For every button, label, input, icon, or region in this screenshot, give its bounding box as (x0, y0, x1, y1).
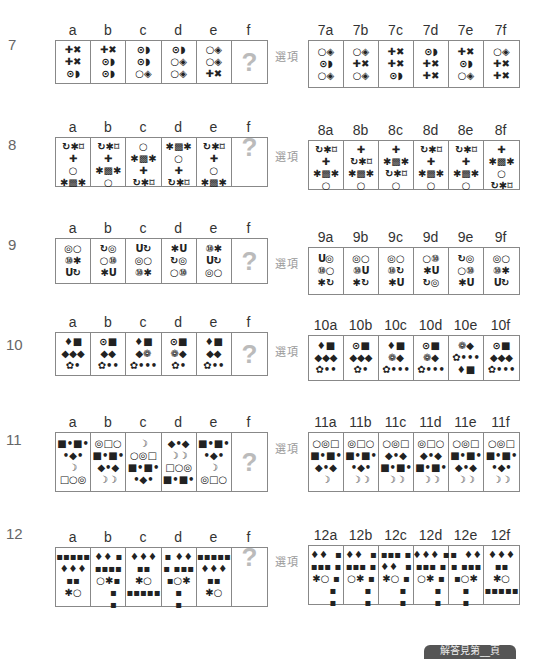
option-cell-12c[interactable]: ▪▪▪ ▪♦♦ ▪✱○ ▪ ▪ ▪ (379, 546, 414, 604)
option-cell-10f[interactable]: ⊙■◆◆◆✿••• (484, 336, 519, 380)
symbol-row: ◆•◆ (315, 462, 337, 474)
option-cell-12b[interactable]: ♦♦ ▪▪▪▪ ▪○✱ ▪ ▪ ▪ (344, 546, 379, 604)
symbol-row: ▪ (421, 597, 442, 609)
symbol-row: ⑩↻ (388, 265, 405, 277)
option-header: 9e (448, 229, 483, 245)
symbol-row: ⊙◗ (424, 46, 438, 58)
symbol-row: ⑩✱ (493, 265, 510, 277)
sequence-cell: ↻✱⌑✚○✱▩✱ (197, 138, 232, 186)
symbol-row: ▪ (463, 597, 470, 609)
symbol-row: ▪▪ (137, 563, 151, 575)
sequence-header: d (161, 119, 196, 135)
option-cell-7b[interactable]: ○◈✚✖○◈ (344, 41, 379, 87)
option-cell-10a[interactable]: ♦■◆◆◆✿•• (309, 336, 344, 380)
option-cell-7e[interactable]: ✚✖⊙◗○◈ (449, 41, 484, 87)
option-cell-7a[interactable]: ○◈⊙◗○◈ (309, 41, 344, 87)
option-header: 7e (448, 22, 483, 38)
symbol-row: Ս↻ (136, 243, 152, 255)
symbol-row: ✱▩✱ (348, 168, 374, 180)
symbol-row: ■•■• (57, 438, 89, 450)
symbol-row: ✚✖ (65, 56, 82, 68)
symbol-row: ○◎□ (313, 438, 340, 450)
option-cell-9e[interactable]: ↻◎○⑩✱Ս (449, 248, 484, 294)
question-mark-icon: ? (242, 551, 258, 563)
symbol-row: ○ (174, 153, 183, 165)
symbol-row: ✚ (104, 153, 112, 165)
option-cell-8e[interactable]: ↻✱⌑✚✱▩✱○ (449, 141, 484, 189)
symbol-row: ✿• (171, 360, 186, 372)
option-cell-7f[interactable]: ○◈✚✖✚✖ (484, 41, 519, 87)
symbol-row: ↻✱⌑ (203, 141, 225, 153)
symbol-row: ♦♦ ▪ (345, 549, 377, 561)
symbol-row: ○ (104, 177, 113, 189)
symbol-row: ▪▪▪ ▪ (381, 549, 412, 561)
option-cell-9a[interactable]: Ս◎⑩○✱↻ (309, 248, 344, 294)
option-cell-8c[interactable]: ✚✱▩✱↻✱⌑○ (379, 141, 414, 189)
option-header: 7b (343, 22, 378, 38)
sequence-header: a (55, 414, 90, 430)
symbol-row: ↻✱⌑ (455, 144, 477, 156)
option-cell-7d[interactable]: ⊙◗✚✖✚✖ (414, 41, 449, 87)
symbol-row: ↻✱⌑ (385, 168, 407, 180)
option-cell-11d[interactable]: ◎□○◆•◆■•■•☽☽ (414, 433, 449, 491)
option-cell-12e[interactable]: ▪ ♦♦▪ ▪▪▪▪○✱▪▪ (449, 546, 484, 604)
option-cell-8b[interactable]: ✚↻✱⌑✱▩✱○ (344, 141, 379, 189)
symbol-row: ○ (392, 180, 401, 192)
symbol-row: ▪ (351, 585, 372, 597)
option-cell-12d[interactable]: ♦♦♦ ▪▪▪▪ ▪○✱ ▪ ▪ ▪ (414, 546, 449, 604)
question-mark-icon: ? (242, 56, 258, 68)
option-cell-12f[interactable]: ♦♦♦▪▪✱○▪▪▪▪▪ (484, 546, 519, 604)
option-cell-8a[interactable]: ↻✱⌑✚✱▩✱○ (309, 141, 344, 189)
sequence-cell: ✚✖⊙◗⊙◗ (91, 41, 126, 83)
option-cell-9b[interactable]: ◎○⑩Ս✱↻ (344, 248, 379, 294)
symbol-row: ↻✱⌑ (490, 180, 512, 192)
option-cell-11f[interactable]: ○◎□■•■••◆•☽☽ (484, 433, 519, 491)
option-headers: 11a11b11c11d11e11f (308, 414, 518, 430)
option-cell-11e[interactable]: ○◎□■•■•◆•◆☽☽ (449, 433, 484, 491)
option-cell-10e[interactable]: ❁◆✿•••♦■ (449, 336, 484, 380)
sequence-cell: ↻◎○⑩✱Ս (91, 239, 126, 283)
question-number: 7 (8, 36, 16, 53)
symbol-row: ❁◆ (171, 348, 187, 360)
symbol-row: ↻✱⌑ (420, 144, 442, 156)
option-cell-10c[interactable]: ♦■❁◆✿••• (379, 336, 414, 380)
symbol-row: ✿• (354, 364, 369, 376)
option-header: 7a (308, 22, 343, 38)
option-cell-10d[interactable]: ⊙■❁◆✿••• (414, 336, 449, 380)
sequence-header: d (161, 529, 196, 545)
option-header: 12e (448, 527, 483, 543)
symbol-row: ▪▪▪▪ (95, 563, 122, 575)
symbol-row: ✚ (69, 153, 77, 165)
sequence-headers: abcdef (55, 529, 266, 545)
symbol-row: ⊙◗ (66, 68, 80, 80)
symbol-row: ⊙◗ (101, 68, 115, 80)
option-cell-9d[interactable]: ○⑩✱Ս↻◎ (414, 248, 449, 294)
symbol-row: ✚ (497, 144, 505, 156)
symbol-row: ▪▪▪▪▪ (485, 585, 519, 597)
sequence-header: f (231, 314, 266, 330)
symbol-row: ○ (497, 168, 506, 180)
sequence-header: d (161, 220, 196, 236)
option-cell-9c[interactable]: ◎○⑩↻✱Ս (379, 248, 414, 294)
option-cell-12a[interactable]: ♦♦ ▪▪▪▪ ▪✱○ ▪ ▪ ▪ (309, 546, 344, 604)
symbol-row: ✱Ս (388, 277, 404, 289)
symbol-row: ○✱ ▪ (417, 573, 444, 585)
symbol-row: ▪○✱ (454, 573, 478, 585)
option-cell-9f[interactable]: ◎○⑩✱Ս↻ (484, 248, 519, 294)
symbol-row: ✱Ս (423, 265, 439, 277)
options-grid: ♦■◆◆◆✿••⊙■◆◆◆✿•♦■❁◆✿•••⊙■❁◆✿•••❁◆✿•••♦■⊙… (308, 335, 520, 381)
option-cell-11a[interactable]: ○◎□■•■•◆•◆☽ (309, 433, 344, 491)
option-header: 9a (308, 229, 343, 245)
sequence-cell: ↻✱⌑✚✱▩✱○ (91, 138, 126, 186)
symbol-row: ✚✖ (458, 46, 475, 58)
symbol-row: ✱○ ▪ (312, 573, 339, 585)
symbol-row: ✚✖ (388, 58, 405, 70)
option-cell-8d[interactable]: ↻✱⌑✚✱▩✱○ (414, 141, 449, 189)
option-cell-7c[interactable]: ✚✖✚✖⊙◗ (379, 41, 414, 87)
symbol-row: ▪▪▪▪▪ (197, 551, 231, 563)
option-cell-8f[interactable]: ✚✱▩✱○↻✱⌑ (484, 141, 519, 189)
option-cell-11b[interactable]: ◎□○■•■••◆•☽☽ (344, 433, 379, 491)
symbol-row: ○◈ (206, 56, 222, 68)
option-cell-10b[interactable]: ⊙■◆◆◆✿• (344, 336, 379, 380)
option-cell-11c[interactable]: ○◎□◆•◆■•■•☽☽ (379, 433, 414, 491)
